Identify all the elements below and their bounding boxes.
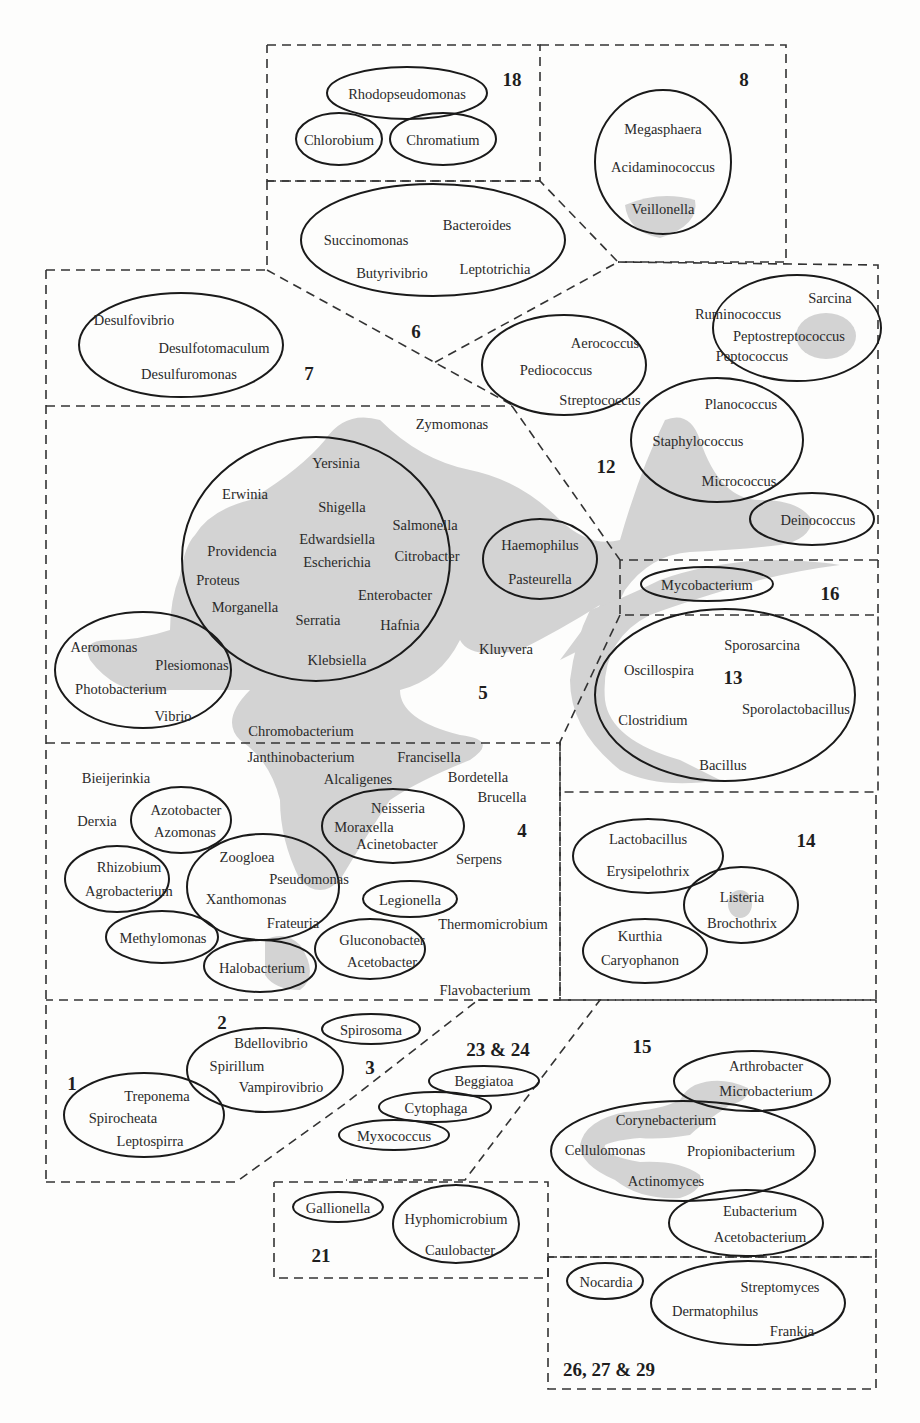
taxon-haemophilus: Haemophilus bbox=[501, 538, 578, 553]
taxon-neisseria: Neisseria bbox=[371, 801, 425, 816]
taxon-eubacterium: Eubacterium bbox=[723, 1204, 797, 1219]
taxon-microbacterium: Microbacterium bbox=[719, 1084, 812, 1099]
taxon-mycobacterium: Mycobacterium bbox=[661, 578, 753, 593]
taxon-desulfotomaculum: Desulfotomaculum bbox=[158, 341, 269, 356]
taxon-agrobacterium: Agrobacterium bbox=[85, 884, 173, 899]
taxon-pasteurella: Pasteurella bbox=[508, 572, 572, 587]
taxon-gallionella: Gallionella bbox=[306, 1201, 370, 1216]
taxon-streptomyces: Streptomyces bbox=[741, 1280, 820, 1295]
taxon-peptococcus: Peptococcus bbox=[716, 349, 788, 364]
taxon-listeria: Listeria bbox=[720, 890, 764, 905]
taxon-alcaligenes: Alcaligenes bbox=[324, 772, 392, 787]
group-number-14: 14 bbox=[797, 831, 816, 850]
taxon-spirillum: Spirillum bbox=[210, 1059, 265, 1074]
taxon-erysipelothrix: Erysipelothrix bbox=[607, 864, 690, 879]
taxon-dermatophilus: Dermatophilus bbox=[672, 1304, 758, 1319]
taxon-sporosarcina: Sporosarcina bbox=[724, 638, 800, 653]
taxon-caryophanon: Caryophanon bbox=[601, 953, 679, 968]
taxon-citrobacter: Citrobacter bbox=[394, 549, 459, 564]
taxon-cytophaga: Cytophaga bbox=[405, 1101, 468, 1116]
taxon-beggiatoa: Beggiatoa bbox=[455, 1074, 514, 1089]
taxon-vibrio: Vibrio bbox=[155, 709, 192, 724]
taxon-pseudomonas: Pseudomonas bbox=[269, 872, 349, 887]
taxon-bacteroides: Bacteroides bbox=[443, 218, 511, 233]
taxon-leptospirra: Leptospirra bbox=[117, 1134, 184, 1149]
taxon-chromobacterium: Chromobacterium bbox=[248, 724, 354, 739]
taxon-photobacterium: Photobacterium bbox=[75, 682, 167, 697]
group-number-8: 8 bbox=[739, 70, 749, 89]
taxon-bordetella: Bordetella bbox=[448, 770, 508, 785]
taxon-azotobacter: Azotobacter bbox=[151, 803, 222, 818]
taxon-bieijerinkia: Bieijerinkia bbox=[82, 771, 150, 786]
taxon-cellulomonas: Cellulomonas bbox=[565, 1143, 646, 1158]
taxon-frankia: Frankia bbox=[770, 1324, 814, 1339]
taxon-kurthia: Kurthia bbox=[618, 929, 662, 944]
taxon-streptococcus: Streptococcus bbox=[559, 393, 640, 408]
taxon-treponema: Treponema bbox=[124, 1089, 190, 1104]
taxon-corynebacterium: Corynebacterium bbox=[616, 1113, 717, 1128]
taxon-caulobacter: Caulobacter bbox=[425, 1243, 495, 1258]
taxon-propionibacterium: Propionibacterium bbox=[687, 1144, 795, 1159]
taxon-brucella: Brucella bbox=[477, 790, 526, 805]
taxon-bdellovibrio: Bdellovibrio bbox=[234, 1036, 307, 1051]
taxon-peptostreptococcus: Peptostreptococcus bbox=[733, 329, 845, 344]
taxon-serpens: Serpens bbox=[456, 852, 502, 867]
taxon-hafnia: Hafnia bbox=[380, 618, 419, 633]
taxon-clostridium: Clostridium bbox=[618, 713, 687, 728]
taxon-staphylococcus: Staphylococcus bbox=[652, 434, 743, 449]
taxon-azomonas: Azomonas bbox=[154, 825, 216, 840]
taxon-rhizobium: Rhizobium bbox=[97, 860, 161, 875]
group-number-21: 21 bbox=[312, 1246, 331, 1265]
taxon-acetobacter: Acetobacter bbox=[347, 955, 417, 970]
taxon-providencia: Providencia bbox=[207, 544, 276, 559]
taxon-aeromonas: Aeromonas bbox=[71, 640, 138, 655]
taxon-escherichia: Escherichia bbox=[303, 555, 371, 570]
taxon-plesiomonas: Plesiomonas bbox=[155, 658, 228, 673]
group-number-4: 4 bbox=[517, 821, 527, 840]
group-number-16: 16 bbox=[821, 584, 840, 603]
taxon-zymomonas: Zymomonas bbox=[416, 417, 489, 432]
taxon-frateuria: Frateuria bbox=[267, 916, 319, 931]
group-number-6: 6 bbox=[411, 322, 421, 341]
taxon-veillonella: Veillonella bbox=[632, 202, 695, 217]
taxon-halobacterium: Halobacterium bbox=[219, 961, 305, 976]
taxon-salmonella: Salmonella bbox=[392, 518, 457, 533]
taxon-actinomyces: Actinomyces bbox=[628, 1174, 705, 1189]
taxon-shigella: Shigella bbox=[318, 500, 366, 515]
taxon-nocardia: Nocardia bbox=[579, 1275, 632, 1290]
group-number-15: 15 bbox=[633, 1037, 652, 1056]
taxon-succinomonas: Succinomonas bbox=[324, 233, 409, 248]
group-number-13: 13 bbox=[724, 668, 743, 687]
taxon-oscillospira: Oscillospira bbox=[624, 663, 694, 678]
taxon-chlorobium: Chlorobium bbox=[304, 133, 374, 148]
group-number-5: 5 bbox=[478, 683, 488, 702]
group-number-3: 3 bbox=[365, 1058, 375, 1077]
taxon-derxia: Derxia bbox=[77, 814, 116, 829]
taxon-acinetobacter: Acinetobacter bbox=[356, 837, 437, 852]
taxon-serratia: Serratia bbox=[295, 613, 340, 628]
taxon-vampirovibrio: Vampirovibrio bbox=[239, 1080, 324, 1095]
group-number-7: 7 bbox=[304, 364, 314, 383]
group-number-26-27-29: 26, 27 & 29 bbox=[563, 1360, 655, 1379]
taxon-moraxella: Moraxella bbox=[334, 820, 394, 835]
taxon-kluyvera: Kluyvera bbox=[479, 642, 533, 657]
taxon-planococcus: Planococcus bbox=[705, 397, 777, 412]
taxon-thermomicrobium: Thermomicrobium bbox=[438, 917, 548, 932]
taxon-morganella: Morganella bbox=[212, 600, 279, 615]
taxon-leptotrichia: Leptotrichia bbox=[460, 262, 531, 277]
group-number-18: 18 bbox=[503, 70, 522, 89]
taxon-desulfuromonas: Desulfuromonas bbox=[141, 367, 237, 382]
taxon-micrococcus: Micrococcus bbox=[702, 474, 777, 489]
taxon-francisella: Francisella bbox=[397, 750, 461, 765]
group-number-12: 12 bbox=[597, 457, 616, 476]
taxon-bacillus: Bacillus bbox=[699, 758, 747, 773]
taxon-lactobacillus: Lactobacillus bbox=[609, 832, 687, 847]
taxon-flavobacterium: Flavobacterium bbox=[439, 983, 530, 998]
taxon-pediococcus: Pediococcus bbox=[520, 363, 592, 378]
taxon-enterobacter: Enterobacter bbox=[358, 588, 432, 603]
taxon-arthrobacter: Arthrobacter bbox=[729, 1059, 803, 1074]
taxon-yersinia: Yersinia bbox=[312, 456, 360, 471]
taxon-rhodopseudomonas: Rhodopseudomonas bbox=[348, 87, 466, 102]
taxon-gluconobacter: Gluconobacter bbox=[339, 933, 424, 948]
taxon-klebsiella: Klebsiella bbox=[308, 653, 367, 668]
